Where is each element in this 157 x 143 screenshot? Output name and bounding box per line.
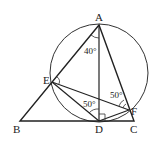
angle-label-a: 40°	[84, 46, 97, 56]
angle-arc-d	[89, 109, 99, 113]
angle-arc-a	[91, 35, 99, 38]
angle-arc-f	[119, 100, 124, 106]
label-d: D	[95, 123, 103, 135]
label-b: B	[13, 123, 20, 135]
angle-arc-f2	[123, 104, 126, 108]
label-c: C	[130, 123, 137, 135]
angle-label-f: 50°	[110, 90, 123, 100]
label-f: F	[131, 105, 137, 117]
angle-label-d: 50°	[83, 99, 96, 109]
geometry-diagram: A B C D E F 40° 50° 50°	[0, 0, 157, 143]
label-e: E	[43, 74, 50, 86]
triangle-abc	[20, 25, 134, 121]
label-a: A	[95, 11, 103, 23]
